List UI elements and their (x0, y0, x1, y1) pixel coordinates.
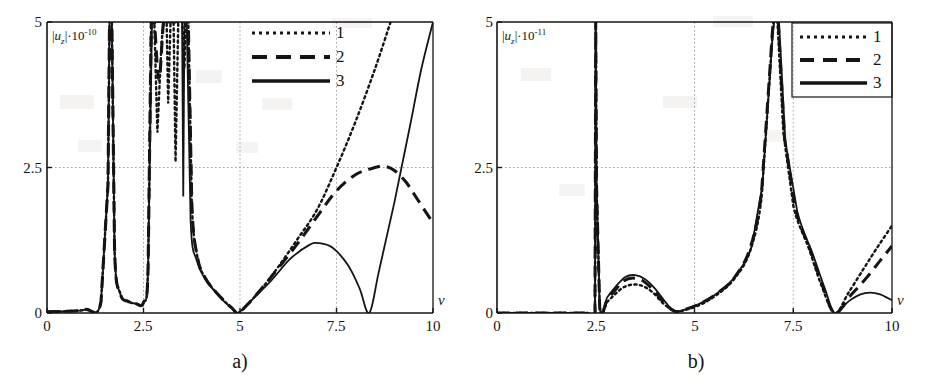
legend-label-2-a: 2 (336, 47, 345, 67)
panel-caption-b: b) (666, 350, 726, 373)
paper-artifacts-b (521, 16, 791, 196)
x-tick-5-a: 5 (220, 318, 260, 335)
y-tick-5-a: 5 (10, 14, 42, 31)
y-tick-5-b: 5 (463, 14, 493, 31)
x-tick-2p5-a: 2.5 (123, 318, 163, 335)
y-tick-2p5-b: 2.5 (455, 160, 493, 177)
y-axis-label-a-text: |uz|·10-10 (52, 28, 97, 43)
panel-a: |uz|·10-10 0 2.5 5 0 2.5 5 7.5 10 ν 1 2 … (0, 0, 463, 389)
x-axis-label-a: ν (438, 292, 445, 309)
legend-label-3-a: 3 (336, 71, 345, 91)
y-axis-label-b: |uz|·10-11 (502, 27, 546, 46)
legend-label-1-b: 1 (873, 27, 882, 47)
x-axis-label-b: ν (897, 292, 904, 309)
y-tick-2p5-a: 2.5 (2, 160, 42, 177)
legend-label-3-b: 3 (873, 73, 882, 93)
y-axis-label-b-text: |uz|·10-11 (502, 28, 546, 43)
panel-caption-a: a) (210, 350, 270, 373)
x-tick-7p5-a: 7.5 (316, 318, 356, 335)
legend-a (252, 33, 330, 81)
x-tick-7p5-b: 7.5 (773, 318, 813, 335)
paper-artifacts-a (60, 18, 372, 153)
x-tick-5-b: 5 (675, 318, 715, 335)
legend-label-1-a: 1 (336, 23, 345, 43)
x-tick-10-b: 10 (872, 318, 912, 335)
grid-b (497, 22, 892, 313)
y-axis-label-a: |uz|·10-10 (52, 27, 97, 46)
x-tick-10-a: 10 (413, 318, 453, 335)
x-tick-0-a: 0 (27, 318, 67, 335)
x-tick-0-b: 0 (477, 318, 517, 335)
panel-b: |uz|·10-11 0 2.5 5 0 2.5 5 7.5 10 ν 1 2 … (463, 0, 926, 389)
legend-label-2-b: 2 (873, 50, 882, 70)
figure-root: |uz|·10-10 0 2.5 5 0 2.5 5 7.5 10 ν 1 2 … (0, 0, 926, 389)
x-tick-2p5-b: 2.5 (576, 318, 616, 335)
